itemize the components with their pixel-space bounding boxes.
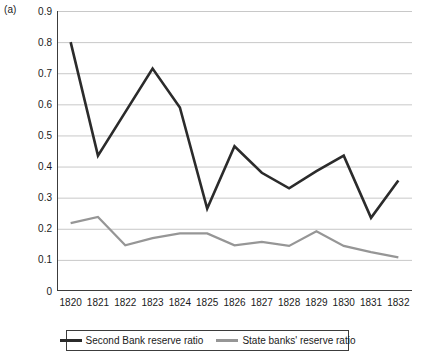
series-line bbox=[71, 217, 399, 257]
x-tick-label: 1829 bbox=[305, 296, 327, 309]
chart-legend: Second Bank reserve ratio State banks' r… bbox=[66, 330, 349, 351]
y-tick-label: 0.8 bbox=[24, 37, 52, 48]
y-tick-label: 0.1 bbox=[24, 254, 52, 265]
legend-item-label: State banks' reserve ratio bbox=[242, 335, 355, 347]
x-axis-tick-labels: 1820182118221823182418251826182718281829… bbox=[57, 296, 412, 312]
y-tick-label: 0.2 bbox=[24, 223, 52, 234]
y-axis-tick-labels: 00.10.20.30.40.50.60.70.80.9 bbox=[20, 11, 52, 291]
y-tick-label: 0.6 bbox=[24, 99, 52, 110]
legend-item-state-banks: State banks' reserve ratio bbox=[216, 335, 355, 347]
x-tick-label: 1830 bbox=[333, 296, 355, 309]
x-tick-label: 1822 bbox=[114, 296, 136, 309]
x-tick-label: 1828 bbox=[278, 296, 300, 309]
y-tick-label: 0.3 bbox=[24, 192, 52, 203]
legend-item-second-bank: Second Bank reserve ratio bbox=[60, 335, 204, 347]
plot-area bbox=[57, 11, 412, 291]
series-line bbox=[71, 42, 399, 218]
x-tick-label: 1832 bbox=[387, 296, 409, 309]
y-tick-label: 0.9 bbox=[24, 6, 52, 17]
legend-line-swatch-icon bbox=[60, 339, 82, 342]
y-tick-label: 0 bbox=[24, 286, 52, 297]
legend-item-label: Second Bank reserve ratio bbox=[86, 335, 204, 347]
x-tick-label: 1825 bbox=[196, 296, 218, 309]
chart-figure: (a) 00.10.20.30.40.50.60.70.80.9 1820182… bbox=[0, 0, 424, 361]
chart-plot-svg bbox=[57, 11, 412, 291]
x-tick-label: 1824 bbox=[169, 296, 191, 309]
x-tick-label: 1827 bbox=[251, 296, 273, 309]
x-tick-label: 1826 bbox=[223, 296, 245, 309]
x-tick-label: 1821 bbox=[87, 296, 109, 309]
panel-label: (a) bbox=[4, 4, 17, 16]
y-tick-label: 0.4 bbox=[24, 161, 52, 172]
x-tick-label: 1823 bbox=[141, 296, 163, 309]
x-tick-label: 1831 bbox=[360, 296, 382, 309]
y-tick-label: 0.7 bbox=[24, 68, 52, 79]
x-tick-label: 1820 bbox=[60, 296, 82, 309]
y-tick-label: 0.5 bbox=[24, 130, 52, 141]
legend-line-swatch-icon bbox=[216, 339, 238, 342]
series-lines bbox=[71, 42, 399, 257]
